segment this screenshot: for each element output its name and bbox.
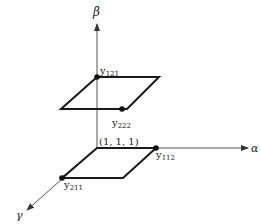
lower-plane	[62, 148, 156, 178]
upper-plane	[61, 77, 159, 109]
label-y112: y112	[155, 149, 175, 162]
point-y121	[94, 74, 100, 80]
diagram-canvas: β α γ (1, 1, 1) y121 y222 y112 y211	[0, 0, 261, 224]
gamma-label: γ	[16, 209, 23, 222]
origin-label: (1, 1, 1)	[99, 136, 139, 147]
label-y222: y222	[111, 117, 131, 130]
beta-label: β	[92, 5, 100, 19]
alpha-label: α	[251, 142, 259, 155]
label-y211: y211	[63, 179, 83, 192]
point-y222	[119, 106, 125, 112]
